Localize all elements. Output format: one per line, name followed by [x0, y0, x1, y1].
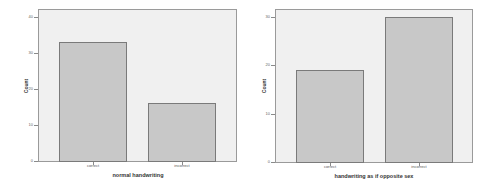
y-tick-label: 20: [258, 63, 270, 67]
y-tick: [271, 17, 275, 18]
x-axis-label: handwriting as if opposite sex: [324, 173, 424, 180]
y-tick-label: 10: [258, 112, 270, 116]
bar-correct: [296, 70, 364, 163]
y-tick: [271, 114, 275, 115]
y-tick-label: 30: [258, 15, 270, 19]
y-tick-label: 0: [258, 160, 270, 164]
y-tick: [271, 65, 275, 66]
y-axis-label: Count: [261, 76, 267, 96]
y-tick: [271, 162, 275, 163]
bar-incorrect: [385, 17, 453, 163]
x-tick-label: incorrect: [399, 164, 439, 169]
chart-handwriting-opposite-sex: 0 10 20 30 Count correct incorrect handw…: [0, 0, 499, 186]
x-tick-label: correct: [310, 164, 350, 169]
